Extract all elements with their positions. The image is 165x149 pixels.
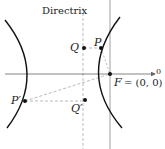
point-p-prime	[23, 99, 27, 103]
label-q: Q	[70, 41, 79, 54]
pprime-f-connector	[25, 74, 110, 101]
point-f	[108, 72, 112, 76]
p-f-connector	[101, 48, 110, 74]
axis-end-label: 0	[156, 67, 161, 76]
label-p-prime: P′	[10, 94, 21, 107]
directrix-label: Directrix	[42, 5, 88, 16]
label-p: P	[93, 36, 102, 49]
point-q-prime	[83, 98, 87, 102]
label-q-prime: Q′	[71, 102, 83, 115]
label-f: F	[113, 76, 122, 89]
point-q	[82, 46, 86, 50]
diagram-canvas: Directrix Q P P′ Q′ F = (0, 0) 0	[0, 0, 165, 149]
hyperbola-diagram: Directrix Q P P′ Q′ F = (0, 0) 0	[0, 0, 165, 149]
label-f-coords: = (0, 0)	[124, 77, 163, 88]
